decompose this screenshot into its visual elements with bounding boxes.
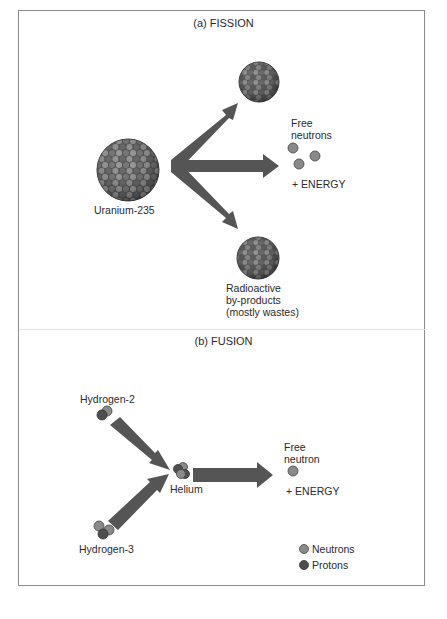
fission-title: (a) FISSION — [0, 17, 447, 29]
free-neutrons-label-line2: neutrons — [291, 129, 332, 141]
helium-label: Helium — [170, 483, 203, 495]
fusion-arrows-icon — [108, 417, 273, 530]
fission-arrows-icon — [171, 103, 279, 229]
fragment-nucleus-upper-icon — [239, 62, 279, 102]
hydrogen2-label: Hydrogen-2 — [80, 393, 135, 405]
byproducts-label-line1: Radioactive — [226, 282, 281, 294]
fragment-nucleus-lower-icon — [237, 237, 279, 279]
uranium-nucleus-icon — [97, 139, 159, 201]
legend-neutron-icon — [300, 545, 309, 554]
helium-nucleus-icon — [174, 463, 190, 479]
fission-energy-label: + ENERGY — [292, 178, 345, 190]
free-neutrons-icon — [288, 143, 320, 169]
byproducts-label-line3: (mostly wastes) — [226, 306, 299, 318]
fusion-free-neutron-label-line1: Free — [284, 441, 306, 453]
hydrogen2-nucleus-icon — [97, 406, 112, 420]
fusion-energy-label: + ENERGY — [286, 485, 339, 497]
free-neutrons-label-line1: Free — [291, 117, 313, 129]
fusion-free-neutron-icon — [288, 466, 298, 476]
byproducts-label-line2: by-products — [226, 294, 281, 306]
hydrogen3-nucleus-icon — [94, 521, 114, 539]
hydrogen3-label: Hydrogen-3 — [79, 543, 134, 555]
fusion-free-neutron-label-line2: neutron — [284, 453, 320, 465]
fusion-title: (b) FUSION — [0, 335, 447, 347]
legend-proton-icon — [300, 561, 309, 570]
uranium-label: Uranium-235 — [94, 204, 155, 216]
legend-neutrons-label: Neutrons — [312, 543, 355, 555]
legend-protons-label: Protons — [312, 559, 348, 571]
fission-fusion-diagram — [0, 0, 447, 619]
